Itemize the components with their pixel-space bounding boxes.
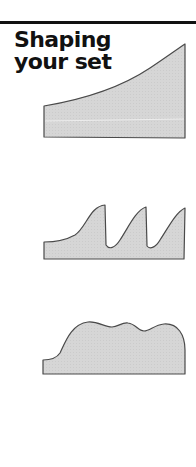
shapes-figure xyxy=(0,0,196,467)
rolling-hills-shape xyxy=(43,322,185,374)
rising-ramp-shape xyxy=(44,44,185,138)
sawtooth-shape xyxy=(44,205,185,259)
